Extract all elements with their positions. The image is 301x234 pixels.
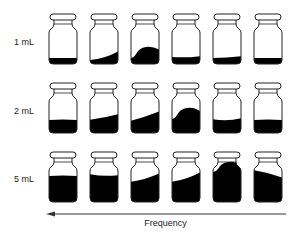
vial-1ml-6 bbox=[253, 14, 283, 66]
vial-5ml-5 bbox=[212, 152, 242, 204]
arrow-left-icon bbox=[46, 212, 55, 217]
vial-2ml-6 bbox=[253, 83, 283, 135]
vial-1ml-5 bbox=[212, 14, 242, 66]
vial-5ml-3 bbox=[130, 152, 160, 204]
vial-5ml-1 bbox=[48, 152, 78, 204]
vial-5ml-4 bbox=[171, 152, 201, 204]
vial-2ml-3 bbox=[130, 83, 160, 135]
row-1ml bbox=[48, 14, 283, 66]
row-2ml bbox=[48, 83, 283, 135]
frequency-arrow bbox=[46, 212, 286, 217]
vial-1ml-1 bbox=[48, 14, 78, 66]
vial-1ml-2 bbox=[89, 14, 119, 66]
vial-1ml-3 bbox=[130, 14, 160, 66]
vial-5ml-2 bbox=[89, 152, 119, 204]
vial-2ml-2 bbox=[89, 83, 119, 135]
vial-1ml-4 bbox=[171, 14, 201, 66]
vial-diagram bbox=[0, 0, 301, 234]
frequency-label: Frequency bbox=[0, 218, 301, 228]
vial-2ml-5 bbox=[212, 83, 242, 135]
vial-2ml-1 bbox=[48, 83, 78, 135]
vial-5ml-6 bbox=[253, 152, 283, 204]
row-5ml bbox=[48, 152, 283, 204]
vial-2ml-4 bbox=[171, 83, 201, 135]
